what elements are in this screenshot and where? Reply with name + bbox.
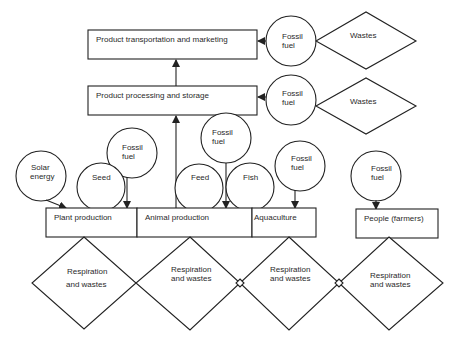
solar-label: energy <box>30 172 54 181</box>
feed-circle <box>175 164 223 212</box>
respiration-label: Respiration <box>67 267 107 276</box>
fossil-fuel-label: Fossil <box>282 32 303 41</box>
fossil-fuel-animal-circle <box>201 113 251 163</box>
fossil-fuel-label: Fossil <box>291 154 312 163</box>
aquaculture-label: Aquaculture <box>254 213 297 222</box>
energy-flow-diagram: Product transportation and marketing Pro… <box>0 0 452 347</box>
respiration-label: Respiration <box>370 271 410 280</box>
wastes-label: Wastes <box>350 97 376 106</box>
wastes-processing-diamond <box>316 78 416 134</box>
processing-label: Product processing and storage <box>96 91 210 100</box>
solar-label: Solar <box>31 163 50 172</box>
animal-production-label: Animal production <box>145 213 209 222</box>
fossil-fuel-label: Fossil <box>371 164 392 173</box>
respiration-animal-diamond <box>136 237 240 330</box>
fish-label: Fish <box>243 173 258 182</box>
respiration-label: Respiration <box>270 265 310 274</box>
fossil-fuel-label: fuel <box>371 173 384 182</box>
wastes-label: Wastes <box>350 31 376 40</box>
fossil-fuel-label: fuel <box>282 98 295 107</box>
fossil-fuel-label: fuel <box>282 41 295 50</box>
respiration-aquaculture-diamond <box>240 237 339 330</box>
fossil-fuel-label: Fossil <box>282 89 303 98</box>
fossil-fuel-label: Fossil <box>122 143 143 152</box>
respiration-label: and wastes <box>171 274 211 283</box>
fossil-fuel-label: fuel <box>122 152 135 161</box>
fossil-fuel-label: fuel <box>291 163 304 172</box>
respiration-label: Respiration <box>171 265 211 274</box>
people-label: People (farmers) <box>364 214 424 223</box>
transport-label: Product transportation and marketing <box>96 35 228 44</box>
feed-label: Feed <box>191 173 209 182</box>
respiration-label: and wastes <box>370 280 410 289</box>
fossil-fuel-label: Fossil <box>212 128 233 137</box>
respiration-label: and wastes <box>66 280 106 289</box>
seed-circle <box>77 163 125 211</box>
seed-label: Seed <box>92 173 111 182</box>
fish-circle <box>226 163 274 211</box>
plant-production-label: Plant production <box>54 213 112 222</box>
respiration-label: and wastes <box>270 274 310 283</box>
wastes-transport-diamond <box>316 12 416 69</box>
fossil-fuel-label: fuel <box>212 137 225 146</box>
solar-energy-arrow <box>46 200 66 208</box>
